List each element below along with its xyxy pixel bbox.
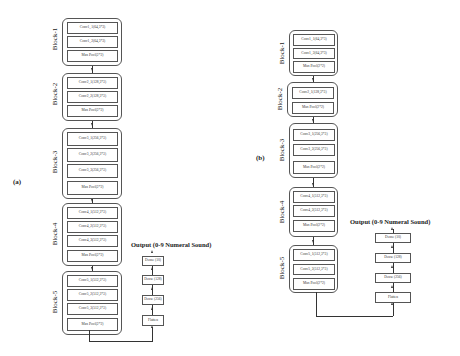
layer-maxpool-3: Max Pool(2*2): [293, 161, 335, 174]
panel-label-a: (a): [13, 178, 21, 186]
layer-maxpool-2: Max Pool(2*2): [67, 105, 118, 117]
layer-dense-256: Dense (256): [142, 295, 164, 305]
layer-maxpool-5: Max Pool(2*2): [293, 278, 335, 290]
layer-maxpool-3: Max Pool(2*2): [67, 181, 118, 195]
block-2-label: Block-2: [51, 79, 59, 109]
arrow-icon: [151, 267, 153, 270]
layer-conv4-3: Conv4_3(512,3*3): [67, 235, 118, 247]
output-title: Output (0-9 Numeral Sound): [350, 218, 430, 225]
block-5: Conv5_1(512,3*3) Conv5_2(512,3*3) Conv5_…: [62, 271, 122, 335]
arrow-icon: [312, 240, 314, 243]
arrow-icon: [91, 123, 93, 126]
block-2: Conv2_1(128,3*3) Conv2_2(128,3*3) Max Po…: [62, 73, 122, 121]
block-1: Conv1_1(64,3*3) Conv1_2(64,3*3) Max Pool…: [289, 30, 338, 76]
layer-dense-10: Dense (10): [142, 256, 164, 266]
layer-conv3-2: Conv3_2(256,3*3): [293, 144, 335, 156]
layer-conv5-1: Conv5_1(512,3*3): [293, 249, 335, 261]
layer-dense-10: Dense (10): [375, 233, 411, 243]
layer-conv5-2: Conv5_2(512,3*3): [293, 264, 335, 275]
layer-conv4-1: Conv4_1(512,3*3): [67, 207, 118, 219]
connector: [152, 327, 153, 342]
layer-conv1-1: Conv1_1(64,3*3): [67, 22, 118, 34]
arrow-icon: [151, 287, 153, 290]
block-2-label: Block-2: [276, 84, 284, 114]
layer-maxpool-4: Max Pool(2*2): [293, 220, 335, 232]
layer-maxpool-1: Max Pool(2*2): [293, 61, 335, 73]
block-5-label: Block-5: [51, 287, 59, 317]
layer-conv5-3: Conv5_3(512,3*3): [67, 303, 118, 315]
layer-conv1-2: Conv1_2(64,3*3): [293, 48, 335, 59]
layer-flatten: Flatten: [142, 315, 164, 326]
connector: [89, 341, 153, 342]
layer-maxpool-1: Max Pool(2*2): [67, 50, 118, 62]
layer-maxpool-2: Max Pool(2*2): [292, 102, 334, 114]
layer-dense-256: Dense (256): [375, 273, 411, 283]
connector: [316, 292, 317, 316]
output-title: Output (0-9 Numeral Sound): [131, 241, 211, 248]
arrow-icon: [91, 267, 93, 270]
block-2: Conv2_1(128,3*3) Max Pool(2*2): [287, 82, 338, 117]
block-1-label: Block-1: [278, 38, 286, 68]
arrow-icon: [312, 119, 314, 122]
arrow-icon: [391, 285, 393, 288]
arrow-icon: [312, 183, 314, 186]
layer-conv2-1: Conv2_1(128,3*3): [292, 87, 334, 99]
layer-flatten: Flatten: [375, 292, 411, 303]
layer-maxpool-5: Max Pool(2*2): [67, 318, 118, 331]
block-3: Conv3_1(256,3*3) Conv3_2(256,3*3) Max Po…: [289, 123, 338, 178]
block-3: Conv3_1(256,3*3) Conv3_2(256,3*3) Conv3_…: [62, 128, 122, 199]
layer-dense-128: Dense (128): [375, 253, 411, 263]
layer-conv3-2: Conv3_2(256,3*3): [67, 148, 118, 162]
arrow-icon: [391, 265, 393, 268]
block-4: Conv4_1(512,3*3) Conv4_2(512,3*3) Max Po…: [289, 187, 338, 237]
layer-conv1-2: Conv1_2(64,3*3): [67, 36, 118, 48]
panel-label-b: (b): [256, 154, 265, 162]
layer-conv3-3: Conv3_3(256,3*3): [67, 164, 118, 178]
arrow-icon: [151, 307, 153, 310]
block-4: Conv4_1(512,3*3) Conv4_2(512,3*3) Conv4_…: [62, 203, 122, 266]
layer-conv3-1: Conv3_1(256,3*3): [293, 129, 335, 141]
block-1-label: Block-1: [51, 24, 59, 54]
layer-conv4-1: Conv4_1(512,3*3): [293, 191, 335, 203]
arrow-icon: [391, 245, 393, 248]
layer-maxpool-4: Max Pool(2*2): [67, 250, 118, 262]
block-4-label: Block-4: [278, 197, 286, 227]
block-5-label: Block-5: [278, 253, 286, 283]
layer-conv4-2: Conv4_2(512,3*3): [67, 221, 118, 233]
block-5: Conv5_1(512,3*3) Conv5_2(512,3*3) Max Po…: [289, 245, 338, 293]
layer-conv4-2: Conv4_2(512,3*3): [293, 205, 335, 217]
arrow-icon: [312, 78, 314, 81]
block-1: Conv1_1(64,3*3) Conv1_2(64,3*3) Max Pool…: [62, 18, 122, 66]
arrow-icon: [151, 250, 153, 253]
block-3-label: Block-3: [51, 147, 59, 177]
block-3-label: Block-3: [278, 135, 286, 165]
layer-conv1-1: Conv1_1(64,3*3): [293, 34, 335, 46]
block-4-label: Block-4: [51, 219, 59, 249]
layer-conv2-2: Conv2_2(128,3*3): [67, 91, 118, 103]
layer-conv2-1: Conv2_1(128,3*3): [67, 77, 118, 89]
layer-conv5-1: Conv5_1(512,3*3): [67, 275, 118, 287]
layer-conv5-2: Conv5_2(512,3*3): [67, 289, 118, 301]
layer-dense-128: Dense (128): [142, 275, 164, 285]
arrow-icon: [91, 199, 93, 202]
arrow-icon: [91, 68, 93, 71]
layer-conv3-1: Conv3_1(256,3*3): [67, 132, 118, 146]
connector: [316, 316, 393, 317]
